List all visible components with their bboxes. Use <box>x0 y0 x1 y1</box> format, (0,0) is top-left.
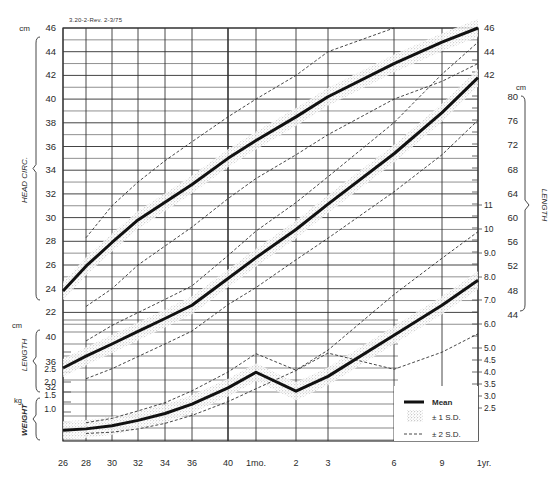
svg-text:44: 44 <box>45 46 56 57</box>
svg-text:44: 44 <box>484 46 495 57</box>
svg-text:68: 68 <box>507 164 518 175</box>
svg-text:7.0: 7.0 <box>484 295 496 305</box>
svg-text:4.0: 4.0 <box>484 367 496 377</box>
svg-text:52: 52 <box>507 260 518 271</box>
svg-text:30: 30 <box>45 212 56 223</box>
svg-text:9.0: 9.0 <box>484 248 496 258</box>
svg-text:LENGTH: LENGTH <box>20 339 29 372</box>
svg-text:44: 44 <box>507 309 518 320</box>
svg-text:3: 3 <box>325 458 330 468</box>
svg-text:60: 60 <box>507 212 518 223</box>
svg-text:38: 38 <box>45 117 56 128</box>
svg-text:11: 11 <box>484 200 493 210</box>
svg-text:6.0: 6.0 <box>484 319 496 329</box>
svg-text:4.5: 4.5 <box>484 355 496 365</box>
svg-text:2.0: 2.0 <box>44 377 56 387</box>
svg-text:1yr.: 1yr. <box>477 458 492 468</box>
svg-text:Mean: Mean <box>432 398 453 407</box>
svg-text:10: 10 <box>484 224 494 234</box>
svg-text:WEIGHT: WEIGHT <box>20 403 29 436</box>
svg-text:2: 2 <box>293 458 298 468</box>
svg-text:28: 28 <box>45 235 56 246</box>
svg-text:40: 40 <box>45 93 56 104</box>
svg-text:cm: cm <box>12 321 22 330</box>
svg-text:1.0: 1.0 <box>44 404 56 414</box>
legend: Mean± 1 S.D.± 2 S.D. <box>394 386 478 441</box>
svg-text:2.5: 2.5 <box>484 403 496 413</box>
svg-text:8.0: 8.0 <box>484 272 496 282</box>
svg-text:1mo.: 1mo. <box>246 458 266 468</box>
svg-text:40: 40 <box>223 458 233 468</box>
svg-text:3.0: 3.0 <box>484 391 496 401</box>
svg-text:3.5: 3.5 <box>484 379 496 389</box>
svg-text:32: 32 <box>133 458 143 468</box>
svg-text:2.5: 2.5 <box>44 364 56 374</box>
svg-text:LENGTH: LENGTH <box>540 189 549 222</box>
svg-text:36: 36 <box>187 458 197 468</box>
svg-text:9: 9 <box>439 458 444 468</box>
svg-text:56: 56 <box>507 236 518 247</box>
svg-text:80: 80 <box>507 91 518 102</box>
svg-text:24: 24 <box>45 283 56 294</box>
svg-text:± 2 S.D.: ± 2 S.D. <box>432 430 461 439</box>
svg-text:76: 76 <box>507 115 518 126</box>
svg-text:32: 32 <box>45 188 56 199</box>
svg-text:34: 34 <box>160 458 170 468</box>
svg-text:HEAD CIRC.: HEAD CIRC. <box>20 157 29 203</box>
svg-text:26: 26 <box>58 458 68 468</box>
svg-text:42: 42 <box>45 69 56 80</box>
svg-text:kg: kg <box>14 396 22 405</box>
growth-chart: 46444240383634323028262422cm403632cm2.52… <box>0 0 559 483</box>
svg-text:28: 28 <box>81 458 91 468</box>
svg-text:46: 46 <box>484 22 495 33</box>
svg-text:6: 6 <box>391 458 396 468</box>
sd1-band <box>63 19 478 300</box>
svg-text:46: 46 <box>45 22 56 33</box>
svg-text:26: 26 <box>45 259 56 270</box>
svg-text:1.5: 1.5 <box>44 390 56 400</box>
svg-text:48: 48 <box>507 285 518 296</box>
svg-text:34: 34 <box>45 164 56 175</box>
svg-text:72: 72 <box>507 139 518 150</box>
svg-text:22: 22 <box>45 306 56 317</box>
mean-lines <box>63 28 478 430</box>
svg-text:40: 40 <box>45 331 56 342</box>
svg-text:36: 36 <box>45 141 56 152</box>
svg-text:64: 64 <box>507 188 518 199</box>
svg-text:± 1 S.D.: ± 1 S.D. <box>432 413 461 422</box>
svg-text:cm: cm <box>19 24 30 33</box>
svg-text:30: 30 <box>107 458 117 468</box>
svg-text:5.0: 5.0 <box>484 343 496 353</box>
svg-text:42: 42 <box>484 69 495 80</box>
